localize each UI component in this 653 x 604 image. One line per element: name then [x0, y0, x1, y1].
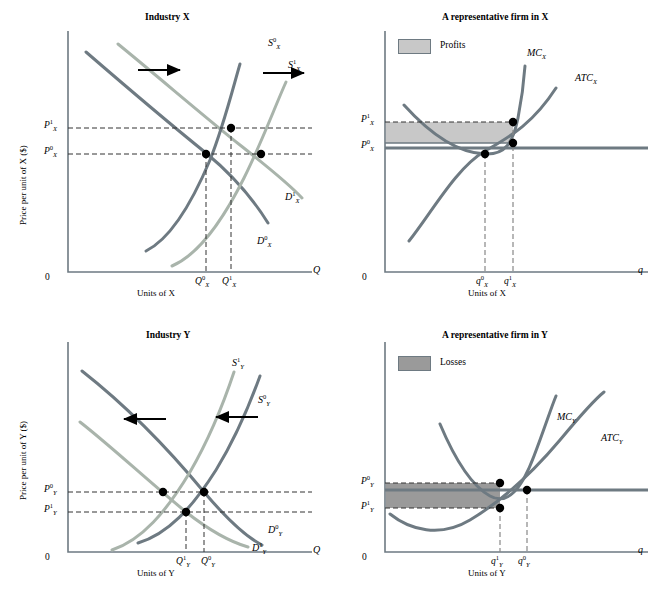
x-axis-label-firm-y: Units of Y	[468, 568, 506, 578]
x-tick-quantity-0-y-sub: Y	[211, 561, 215, 568]
legend-label-profits: Profits	[440, 40, 465, 50]
axis-lines-industry-y	[68, 342, 312, 552]
x-tick-quantity-1-firm-y-sub: Y	[499, 561, 503, 568]
x-tick-quantity-1-y-text: Q	[176, 556, 183, 566]
shaded-region-profits	[386, 122, 513, 143]
curve-label-supply-0-y-sup: 0	[263, 393, 266, 400]
curve-label-demand-1-y-sup: 1	[259, 541, 262, 548]
axis-lines-firm-x	[385, 31, 648, 272]
axis-lines-firm-y	[385, 342, 648, 552]
curve-label-supply-1-x-sup: 1	[293, 58, 296, 65]
curve-label-atc-y-sub: Y	[619, 438, 623, 445]
curve-label-atc-y: ATCY	[601, 432, 623, 445]
x-tick-quantity-1-firm-x-sub: X	[512, 281, 516, 288]
y-tick-price-1-y-sup: 1	[50, 502, 53, 509]
origin-label-industry-y: 0	[45, 552, 50, 562]
curve-label-mc-y-text: MC	[557, 411, 572, 422]
point-equilibrium-0-x	[202, 150, 210, 158]
y-tick-price-0-firm-x: P0X	[361, 138, 374, 152]
curve-label-demand-0-y-sup: 0	[275, 523, 278, 530]
y-tick-price-0-x-sup: 0	[50, 144, 53, 151]
curve-demand-0-x	[86, 52, 268, 223]
curve-label-atc-x-sub: X	[593, 78, 597, 85]
x-tick-quantity-1-x-text: Q	[222, 276, 229, 286]
x-tick-quantity-1-firm-x: q1X	[504, 274, 516, 288]
x-tick-quantity-0-firm-x-sub: X	[484, 281, 488, 288]
x-tick-quantity-0-x: Q0X	[195, 274, 209, 288]
x-axis-end-label-industry-y: Q	[313, 544, 320, 555]
curve-label-mc-x-sub: X	[542, 53, 546, 60]
legend-swatch-profits	[398, 39, 431, 54]
point-equilibrium-1-x	[227, 124, 235, 132]
y-axis-label-industry-y: Price per unit of Y ($)	[18, 421, 28, 500]
point-firm-x-new-output	[509, 118, 517, 126]
curve-label-supply-1-y-sup: 1	[237, 356, 240, 363]
y-tick-price-1-x-sub: X	[53, 125, 57, 132]
curve-label-atc-x: ATCX	[575, 72, 597, 85]
x-axis-label-industry-x: Units of X	[137, 288, 175, 298]
curve-label-mc-x-text: MC	[527, 47, 542, 58]
x-tick-quantity-1-y-sub: Y	[186, 561, 190, 568]
x-tick-quantity-0-firm-y-sup: 0	[523, 554, 526, 561]
panel-title-industry-y: Industry Y	[146, 330, 190, 340]
y-tick-price-1-firm-x: P1X	[361, 112, 374, 126]
y-tick-price-1-firm-y-sub: Y	[370, 506, 374, 513]
x-axis-label-firm-x: Units of X	[468, 288, 506, 298]
y-tick-price-1-firm-y-sup: 1	[367, 499, 370, 506]
y-tick-price-0-x-sub: X	[53, 151, 57, 158]
y-tick-price-1-y: P1Y	[44, 502, 57, 516]
x-tick-quantity-1-y: Q1Y	[176, 554, 190, 568]
curve-label-demand-0-y: D0Y	[268, 523, 282, 537]
curve-demand-0-y	[82, 371, 262, 545]
curve-label-supply-0-y-sub: Y	[266, 400, 270, 407]
x-tick-quantity-0-firm-x-sup: 0	[481, 274, 484, 281]
curve-label-supply-1-x-sub: X	[296, 65, 300, 72]
curve-label-supply-0-x-sup: 0	[273, 36, 276, 43]
x-tick-quantity-1-x-sub: X	[232, 281, 236, 288]
x-tick-quantity-0-x-text: Q	[195, 276, 202, 286]
y-axis-label-industry-x: Price per unit of X ($)	[18, 145, 28, 225]
x-axis-end-label-firm-x: q	[638, 264, 643, 275]
shaded-region-losses	[386, 483, 500, 508]
point-firm-x-atc-at-q1	[509, 139, 517, 147]
y-tick-price-0-y: P0Y	[44, 482, 57, 496]
y-tick-price-0-firm-x-sup: 0	[367, 138, 370, 145]
panel-title-industry-x: Industry X	[145, 12, 190, 22]
point-firm-y-price-0	[496, 479, 504, 487]
x-tick-quantity-0-x-sub: X	[205, 281, 209, 288]
origin-label-firm-y: 0	[362, 552, 367, 562]
y-tick-price-0-firm-y-sub: Y	[370, 481, 374, 488]
y-tick-price-1-y-sub: Y	[53, 509, 57, 516]
curve-label-demand-1-y: D1Y	[252, 541, 266, 555]
curve-atc-x	[409, 88, 556, 241]
y-tick-price-1-x-sup: 1	[50, 118, 53, 125]
y-tick-price-1-firm-x-sub: X	[370, 119, 374, 126]
economics-figure: Industry X Price per unit of X ($) Units…	[0, 0, 653, 604]
x-axis-end-label-industry-x: Q	[313, 264, 320, 275]
curve-label-mc-y-sub: Y	[572, 417, 576, 424]
curve-supply-0-x	[146, 64, 240, 251]
point-equilibrium-0-y	[200, 488, 208, 496]
curve-label-supply-0-x-sub: X	[276, 43, 280, 50]
curve-demand-1-x	[118, 44, 302, 198]
panel-firm-y-graphics	[385, 342, 648, 552]
curve-label-demand-0-x-sup: 0	[264, 234, 267, 241]
y-tick-price-1-firm-x-sup: 1	[367, 112, 370, 119]
y-tick-price-1-firm-y: P1Y	[361, 499, 374, 513]
curve-label-demand-1-x: D1X	[285, 190, 299, 204]
panel-industry-y-graphics	[68, 342, 312, 552]
x-tick-quantity-1-firm-y: q1Y	[491, 554, 503, 568]
x-tick-quantity-0-firm-y: q0Y	[518, 554, 530, 568]
origin-label-firm-x: 0	[362, 272, 367, 282]
legend-swatch-losses	[398, 356, 431, 371]
point-firm-y-min-atc	[523, 486, 531, 494]
curve-label-supply-1-y-sub: Y	[240, 363, 244, 370]
curve-label-supply-0-y: S0Y	[258, 393, 270, 407]
y-tick-price-0-x: P0X	[44, 144, 57, 158]
x-tick-quantity-1-x-sup: 1	[229, 274, 232, 281]
x-tick-quantity-0-y: Q0Y	[201, 554, 215, 568]
x-axis-end-label-firm-y: q	[638, 544, 643, 555]
legend-label-losses: Losses	[440, 357, 466, 367]
x-tick-quantity-1-x: Q1X	[222, 274, 236, 288]
curve-label-mc-y: MCY	[557, 411, 576, 424]
